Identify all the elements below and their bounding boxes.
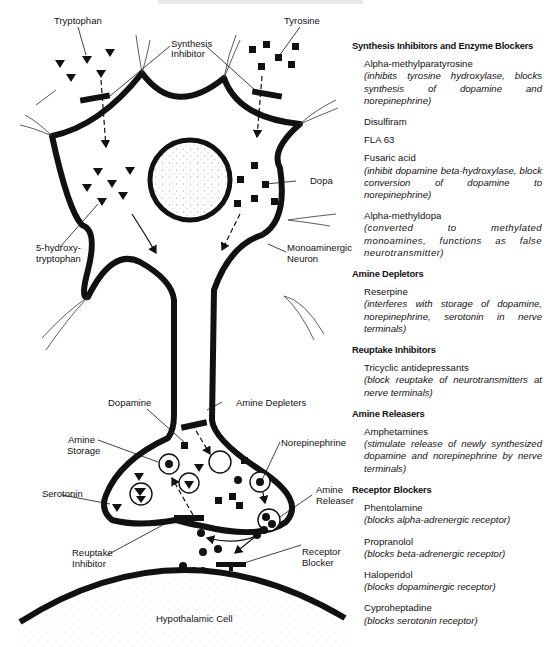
synthesis-inhibitor-bar-left — [80, 92, 111, 103]
drug-description: (blocks beta-adrenergic receptor) — [364, 548, 542, 560]
legend-item: Fusaric acid(inhibit dopamine beta-hydro… — [364, 152, 542, 201]
label-hypothalamic-cell: Hypothalamic Cell — [156, 613, 233, 624]
dopamine-molecule — [181, 442, 188, 449]
legend-item: Tricyclic antidepressants(block reuptake… — [364, 362, 542, 399]
5-hydroxytryptophan-molecules — [82, 167, 135, 206]
drug-legend: Synthesis Inhibitors and Enzyme Blockers… — [364, 40, 542, 627]
label-amine-depleters: Amine Depleters — [236, 397, 306, 408]
drug-description: (blocks alpha-adrenergic receptor) — [364, 514, 542, 526]
label-serotonin: Serotonin — [42, 488, 83, 499]
drug-name: Propranolol — [364, 536, 542, 548]
label-amine-releaser-line1: Amine — [316, 484, 343, 495]
drug-name: FLA 63 — [364, 134, 542, 146]
label-receptor-blocker-line2: Blocker — [302, 557, 334, 568]
label-monoaminergic-neuron-line2: Neuron — [287, 253, 318, 264]
legend-section-title: Amine Releasers — [352, 408, 542, 420]
hypothalamic-cell — [20, 562, 345, 647]
drug-name: Fusaric acid — [364, 152, 542, 164]
drug-name: Alpha-methylparatyrosine — [364, 58, 542, 70]
legend-item: Disulfiram — [364, 116, 542, 128]
receptor-site — [200, 567, 206, 573]
drug-name: Disulfiram — [364, 116, 542, 128]
receptor-site — [179, 562, 187, 570]
legend-item: Cyproheptadine(blocks serotonin receptor… — [364, 602, 542, 626]
tyrosine-molecules — [249, 41, 299, 70]
drug-name: Amphetamines — [364, 426, 542, 438]
legend-item: Amphetamines(stimulate release of newly … — [364, 426, 542, 475]
drug-name: Tricyclic antidepressants — [364, 362, 542, 374]
receptor-site — [191, 567, 197, 573]
drug-name: Phentolamine — [364, 502, 542, 514]
label-receptor-blocker-line1: Receptor — [302, 546, 341, 557]
label-synthesis-inhibitor-line2: Inhibitor — [171, 48, 205, 59]
label-dopamine: Dopamine — [108, 397, 151, 408]
empty-vesicle — [209, 451, 231, 473]
drug-description: (inhibit dopamine beta-hydroxylase, bloc… — [364, 165, 542, 202]
label-amine-storage-line2: Storage — [67, 445, 100, 456]
drug-description: (stimulate release of newly synthesized … — [364, 438, 542, 475]
legend-item: Alpha-methylparatyrosine(inhibits tyrosi… — [364, 58, 542, 107]
drug-description: (interferes with storage of dopamine, no… — [364, 298, 542, 335]
drug-name: Alpha-methyldopa — [364, 210, 542, 222]
legend-item: Haloperidol(blocks dopaminergic receptor… — [364, 569, 542, 593]
legend-section-title: Receptor Blockers — [352, 484, 542, 496]
reuptake-inhibitor-bar — [174, 515, 204, 521]
label-5-hydroxytryptophan-line2: tryptophan — [36, 253, 81, 264]
drug-name: Haloperidol — [364, 569, 542, 581]
label-monoaminergic-neuron-line1: Monoaminergic — [287, 242, 352, 253]
synthesis-inhibitor-bar-right — [252, 88, 283, 99]
legend-section-title: Reuptake Inhibitors — [352, 344, 542, 356]
drug-description: (inhibits tyrosine hydroxylase, blocks s… — [364, 70, 542, 107]
amine-depleter-bar — [181, 419, 208, 430]
legend-item: Alpha-methyldopa(converted to methylated… — [364, 210, 542, 259]
nucleus — [150, 140, 230, 220]
drug-description: (blocks serotonin receptor) — [364, 615, 542, 627]
drug-name: Cyproheptadine — [364, 602, 542, 614]
drug-description: (blocks dopaminergic receptor) — [364, 581, 542, 593]
drug-description: (converted to methylated monoamines, fun… — [364, 222, 542, 259]
drug-name: Reserpine — [364, 286, 542, 298]
label-dopa: Dopa — [310, 175, 333, 186]
label-tryptophan: Tryptophan — [54, 15, 102, 26]
terminal-contents — [112, 419, 280, 556]
label-norepinephrine: Norepinephrine — [281, 437, 346, 448]
neuron-diagram: Tryptophan Tyrosine Synthesis Inhibitor … — [0, 0, 360, 647]
legend-item: Propranolol(blocks beta-adrenergic recep… — [364, 536, 542, 560]
legend-section-title: Synthesis Inhibitors and Enzyme Blockers — [352, 40, 542, 52]
label-reuptake-inhibitor-line1: Reuptake — [72, 547, 113, 558]
dopa-molecules — [234, 162, 278, 207]
label-tyrosine: Tyrosine — [284, 15, 320, 26]
legend-item: FLA 63 — [364, 134, 542, 146]
legend-item: Phentolamine(blocks alpha-adrenergic rec… — [364, 502, 542, 526]
label-amine-releaser-line2: Releaser — [316, 495, 354, 506]
drug-description: (block reuptake of neurotransmitters at … — [364, 374, 542, 398]
label-5-hydroxytryptophan-line1: 5-hydroxy- — [36, 242, 81, 253]
label-reuptake-inhibitor-line2: Inhibitor — [72, 558, 106, 569]
legend-item: Reserpine(interferes with storage of dop… — [364, 286, 542, 335]
label-amine-storage-line1: Amine — [68, 434, 95, 445]
legend-section-title: Amine Depletors — [352, 268, 542, 280]
tryptophan-molecules — [55, 49, 115, 82]
